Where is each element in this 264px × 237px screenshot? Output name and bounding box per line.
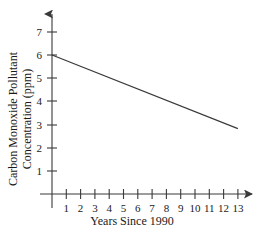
x-tick-label-7: 7 xyxy=(149,203,155,214)
x-tick-label-12: 12 xyxy=(218,203,229,214)
data-series-line xyxy=(52,55,238,129)
x-tick-label-8: 8 xyxy=(164,203,170,214)
x-tick-label-9: 9 xyxy=(178,203,184,214)
x-tick-label-11: 11 xyxy=(204,203,215,214)
y-axis-title: Carbon Monoxide Pollutant Concentration … xyxy=(0,0,40,237)
x-tick-label-13: 13 xyxy=(232,203,243,214)
x-tick-label-2: 2 xyxy=(78,203,84,214)
x-tick-label-10: 10 xyxy=(190,203,201,214)
x-tick-label-4: 4 xyxy=(106,203,112,214)
chart-figure: 7 6 5 4 3 2 1 1 2 3 4 5 6 7 8 9 10 11 12… xyxy=(0,0,264,237)
x-tick-label-1: 1 xyxy=(64,203,70,214)
x-tick-label-3: 3 xyxy=(92,203,98,214)
x-tick-label-5: 5 xyxy=(121,203,127,214)
x-tick-label-6: 6 xyxy=(135,203,141,214)
y-axis-title-line-1: Carbon Monoxide Pollutant xyxy=(6,52,20,186)
y-axis-title-line-2: Concentration (ppm) xyxy=(20,52,34,186)
